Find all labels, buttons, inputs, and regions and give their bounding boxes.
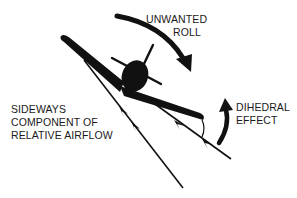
- unwanted-roll-label-line1: UNWANTED: [146, 13, 207, 26]
- sideways-airflow-label-line3: RELATIVE AIRFLOW: [11, 129, 113, 142]
- dihedral-effect-label-line2: EFFECT: [236, 114, 290, 127]
- sideways-airflow-line-2: [148, 99, 231, 159]
- unwanted-roll-label: UNWANTED ROLL: [146, 13, 207, 39]
- left-wing: [60, 35, 124, 92]
- sideways-airflow-label-line2: COMPONENT OF: [11, 116, 113, 129]
- sideways-airflow-label-line1: SIDEWAYS: [11, 103, 113, 116]
- unwanted-roll-label-line2: ROLL: [146, 26, 207, 39]
- dihedral-effect-label: DIHEDRAL EFFECT: [236, 101, 290, 127]
- dihedral-angle-arc: [202, 120, 204, 137]
- sideways-airflow-label: SIDEWAYS COMPONENT OF RELATIVE AIRFLOW: [11, 103, 113, 142]
- dihedral-effect-arrow-icon: [219, 98, 233, 143]
- dihedral-effect-label-line1: DIHEDRAL: [236, 101, 290, 114]
